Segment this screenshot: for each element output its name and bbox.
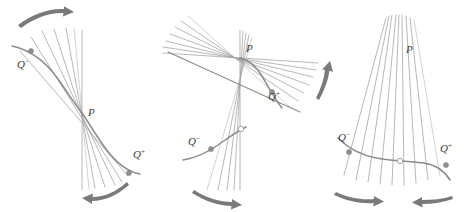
arrow-bottom-right-right-panel	[412, 196, 453, 208]
label-q-minus-left-sup: −	[25, 58, 29, 66]
label-q-minus-right-text: Q	[338, 131, 346, 143]
label-q-plus-right-text: Q	[440, 142, 448, 154]
secant-fan-left	[20, 28, 128, 189]
label-q-plus-left-text: Q	[133, 148, 141, 160]
secant-line	[31, 37, 122, 182]
q-minus-marker-right	[346, 149, 351, 154]
curve-left	[12, 46, 140, 174]
label-q-plus-right: Q+	[440, 142, 452, 154]
q-plus-marker-right	[443, 162, 448, 167]
label-p-left: P	[87, 106, 95, 118]
label-q-plus-right-sup: +	[448, 142, 452, 150]
arrow-right-up-middle-panel	[316, 61, 333, 100]
open-marker-right	[397, 158, 402, 163]
label-q-plus-left: Q+	[133, 148, 145, 160]
arrow-top-right-left-panel	[18, 6, 74, 28]
label-q-minus-right: Q−	[338, 131, 350, 143]
label-q-minus-middle-text: Q	[188, 135, 196, 147]
secant-fan-middle-radial	[163, 16, 318, 108]
label-p-right: P	[405, 43, 413, 55]
secant-line-through-q-plus	[168, 52, 300, 112]
arrow-bottom-left-right-panel	[334, 192, 384, 207]
q-minus-marker	[28, 48, 33, 53]
label-q-plus-left-sup: +	[141, 148, 145, 156]
secant-line	[234, 31, 243, 190]
q-minus-marker-middle	[208, 146, 213, 151]
figure-root: Q− Q+ P	[0, 0, 472, 212]
secant-line	[20, 51, 128, 176]
open-marker-middle	[238, 126, 243, 131]
label-q-minus-right-sup: −	[346, 131, 350, 139]
label-q-minus-middle: Q−	[188, 135, 200, 147]
panel-middle: P Q+ Q−	[163, 16, 333, 210]
panel-right: P Q− Q+	[334, 15, 453, 208]
secant-line	[54, 29, 105, 187]
label-p-middle: P	[245, 42, 253, 54]
secant-line	[166, 41, 313, 77]
label-q-minus-middle-sup: −	[196, 135, 200, 143]
label-q-plus-middle-text: Q	[268, 90, 276, 102]
label-q-plus-middle: Q+	[268, 90, 280, 102]
label-q-plus-middle-sup: +	[276, 90, 280, 98]
secant-line	[356, 16, 389, 180]
figure-canvas: Q− Q+ P	[0, 0, 472, 212]
label-q-minus-left-text: Q	[17, 58, 25, 70]
secant-line	[170, 34, 309, 85]
secant-line	[406, 16, 416, 183]
q-plus-marker	[126, 170, 131, 175]
label-q-minus-left: Q−	[17, 58, 29, 70]
secant-line	[414, 20, 440, 176]
panel-left: Q− Q+ P	[12, 6, 145, 204]
arrow-bottom-right-middle-panel	[192, 190, 242, 210]
arrow-bottom-left-left-panel	[82, 182, 129, 204]
